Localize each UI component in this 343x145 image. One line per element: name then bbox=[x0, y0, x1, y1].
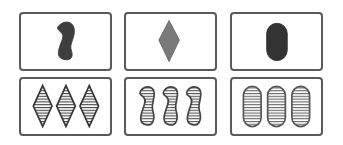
diamond-icon bbox=[126, 14, 215, 69]
diamond-icon bbox=[57, 86, 76, 127]
oval-icon bbox=[292, 86, 310, 126]
oval-icon bbox=[268, 86, 286, 126]
card-grid: 1 solid squiggle 1 solid diamond 1 solid… bbox=[0, 0, 343, 145]
oval-icon bbox=[232, 14, 321, 69]
squiggle-icon bbox=[21, 14, 110, 69]
card-striped-oval-3[interactable]: 3 striped ovals bbox=[230, 77, 323, 136]
oval-group-icon bbox=[232, 79, 321, 134]
card-solid-squiggle-1[interactable]: 1 solid squiggle bbox=[19, 12, 112, 71]
squiggle-group-icon bbox=[126, 79, 215, 134]
squiggle-icon bbox=[187, 87, 201, 125]
card-striped-diamond-3[interactable]: 3 striped diamonds bbox=[19, 77, 112, 136]
diamond-group-icon bbox=[21, 79, 110, 134]
oval-icon bbox=[243, 86, 261, 126]
card-striped-squiggle-3[interactable]: 3 striped squiggles bbox=[124, 77, 217, 136]
squiggle-icon bbox=[163, 87, 177, 125]
diamond-icon bbox=[33, 86, 52, 127]
card-solid-oval-1[interactable]: 1 solid oval bbox=[230, 12, 323, 71]
diamond-icon bbox=[80, 86, 99, 127]
card-solid-diamond-1[interactable]: 1 solid diamond bbox=[124, 12, 217, 71]
squiggle-icon bbox=[140, 87, 154, 125]
